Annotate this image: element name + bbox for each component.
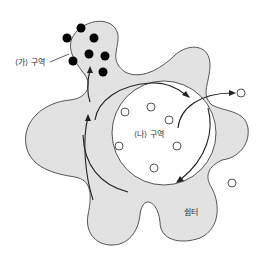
label-region-na: ⟨나⟩ 구역 xyxy=(134,129,164,139)
region-na-circle xyxy=(112,81,216,185)
diagram: ⟨가⟩ 구역 ⟨나⟩ 구역 쉼터 xyxy=(0,0,264,264)
leader-line-ga xyxy=(50,54,69,62)
label-shelter: 쉼터 xyxy=(184,207,198,217)
label-region-ga: ⟨가⟩ 구역 xyxy=(15,57,45,67)
